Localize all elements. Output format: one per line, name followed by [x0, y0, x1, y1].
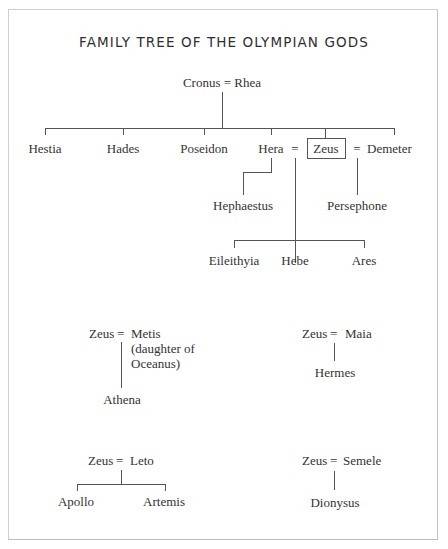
node-leto-father: Zeus [88, 453, 113, 468]
node-hephaestus: Hephaestus [213, 198, 273, 213]
tick-demeter [394, 128, 395, 135]
connector-metis-athena [121, 342, 122, 388]
tick-poseidon [204, 128, 205, 135]
connector-semele-dionysus [334, 471, 335, 490]
tick-hestia [45, 128, 46, 135]
marriage-sign-hera-zeus: = [291, 141, 298, 156]
tick-zeus [325, 128, 326, 138]
node-artemis: Artemis [143, 494, 185, 509]
node-hebe: Hebe [281, 253, 308, 268]
node-demeter: Demeter [367, 141, 412, 156]
node-apollo: Apollo [58, 494, 94, 509]
tick-artemis [165, 484, 166, 491]
connector-hera-zeus-children-bar [234, 240, 365, 241]
connector-root-down [222, 92, 223, 129]
node-hermes: Hermes [315, 365, 355, 380]
marriage-sign-maia: = [330, 326, 337, 341]
metis-note-line2: Oceanus) [131, 356, 180, 371]
tick-apollo [77, 484, 78, 491]
connector-hera-hephaestus [243, 172, 272, 173]
marriage-sign-semele: = [330, 453, 337, 468]
node-dionysus: Dionysus [310, 495, 359, 510]
marriage-sign-leto: = [116, 453, 123, 468]
connector-maia-hermes [334, 343, 335, 361]
node-poseidon: Poseidon [180, 141, 228, 156]
connector-leto-down [121, 470, 122, 485]
tick-hera [271, 128, 272, 135]
node-semele-father: Zeus [302, 453, 327, 468]
node-semele: Semele [343, 453, 381, 468]
node-leto: Leto [130, 453, 154, 468]
node-cronus-rhea: Cronus = Rhea [183, 75, 261, 90]
tick-ares [364, 240, 365, 248]
node-athena: Athena [103, 392, 141, 407]
connector-leto-children-bar [77, 484, 166, 485]
node-hades: Hades [107, 141, 140, 156]
node-hestia: Hestia [28, 141, 61, 156]
node-hera: Hera [258, 141, 283, 156]
diagram-title: FAMILY TREE OF THE OLYMPIAN GODS [0, 34, 448, 50]
node-metis: Metis [131, 326, 161, 341]
connector-hera-down [271, 158, 272, 173]
marriage-sign-metis: = [117, 326, 124, 341]
node-persephone: Persephone [327, 198, 387, 213]
connector-hephaestus-down [243, 172, 244, 195]
connector-hera-zeus-down [295, 158, 296, 263]
node-maia-father: Zeus [302, 326, 327, 341]
connector-siblings-bar [45, 128, 395, 129]
tick-eileithyia [234, 240, 235, 248]
tick-hades [123, 128, 124, 135]
node-eileithyia: Eileithyia [209, 253, 260, 268]
node-metis-father: Zeus [89, 326, 114, 341]
metis-note-line1: (daughter of [131, 341, 195, 356]
node-zeus: Zeus [313, 141, 338, 156]
node-ares: Ares [352, 253, 377, 268]
connector-zeus-demeter-down [357, 158, 358, 195]
marriage-sign-zeus-demeter: = [353, 141, 360, 156]
node-maia: Maia [345, 326, 372, 341]
